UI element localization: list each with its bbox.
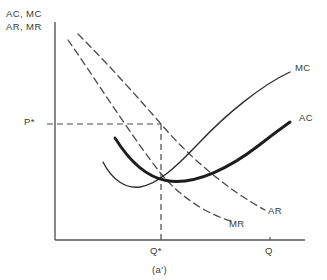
quantity-marker-label: Q*: [150, 245, 162, 257]
ar-curve: [78, 34, 265, 210]
x-axis-label: Q: [265, 245, 273, 257]
mr-curve-label: MR: [229, 218, 245, 230]
figure-caption: (a'): [152, 264, 167, 276]
price-marker-label: P*: [24, 116, 35, 128]
ar-curve-label: AR: [268, 205, 282, 217]
y-axis-label-line2: AR, MR: [6, 21, 42, 32]
y-axis-label-line1: AC, MC: [6, 8, 42, 19]
plot-canvas: [0, 0, 327, 280]
ac-curve-label: AC: [299, 112, 313, 124]
mc-curve: [103, 72, 290, 187]
y-axis-label: AC, MCAR, MR: [6, 8, 42, 33]
mc-curve-label: MC: [295, 62, 311, 74]
ac-curve: [115, 122, 290, 181]
economics-figure: AC, MCAR, MR P* Q* Q MC AC AR MR (a'): [0, 0, 327, 280]
